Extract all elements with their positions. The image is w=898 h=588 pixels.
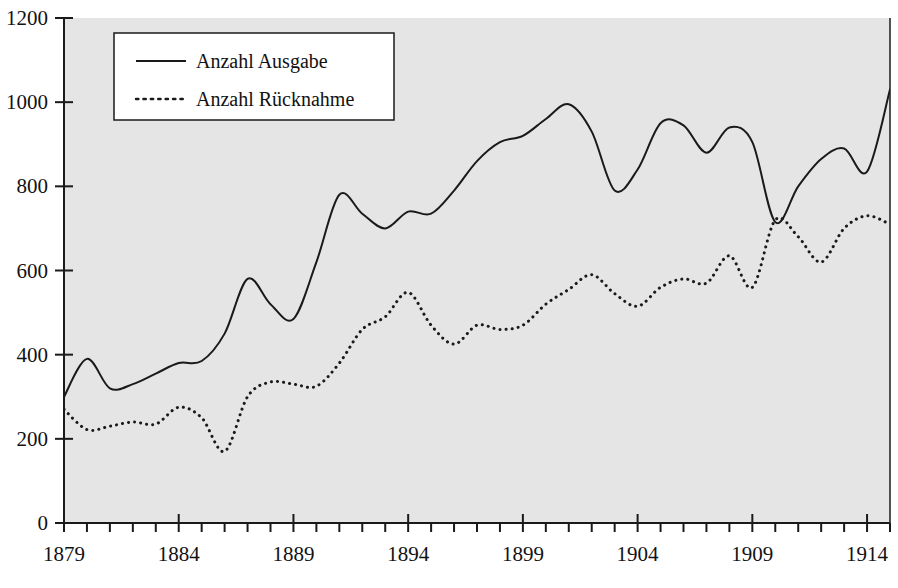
y-axis-tick-labels: 020040060080010001200 bbox=[6, 6, 48, 535]
y-axis-tick-label: 200 bbox=[17, 427, 49, 451]
x-axis-tick-label: 1894 bbox=[387, 542, 430, 566]
x-axis-tick-labels: 18791884188918941899190419091914 bbox=[43, 542, 889, 566]
x-axis-tick-label: 1899 bbox=[502, 542, 544, 566]
y-axis-tick-label: 0 bbox=[38, 511, 49, 535]
x-axis-tick-label: 1904 bbox=[617, 542, 660, 566]
y-axis-tick-label: 1200 bbox=[6, 6, 48, 30]
x-axis-tick-label: 1889 bbox=[272, 542, 314, 566]
y-axis-tick-label: 400 bbox=[17, 343, 49, 367]
chart-container: 020040060080010001200 187918841889189418… bbox=[0, 0, 898, 588]
chart-legend: Anzahl Ausgabe Anzahl Rücknahme bbox=[114, 33, 394, 120]
line-chart: 020040060080010001200 187918841889189418… bbox=[0, 0, 898, 588]
x-axis-tick-label: 1884 bbox=[158, 542, 201, 566]
x-axis-tick-label: 1879 bbox=[43, 542, 85, 566]
y-axis-tick-label: 800 bbox=[17, 174, 49, 198]
legend-label-anzahl-ruecknahme: Anzahl Rücknahme bbox=[196, 88, 354, 110]
x-axis-tick-label: 1909 bbox=[731, 542, 773, 566]
legend-label-anzahl-ausgabe: Anzahl Ausgabe bbox=[196, 50, 328, 73]
x-axis-tick-label: 1914 bbox=[846, 542, 889, 566]
y-axis-tick-label: 600 bbox=[17, 259, 49, 283]
y-axis-tick-label: 1000 bbox=[6, 90, 48, 114]
